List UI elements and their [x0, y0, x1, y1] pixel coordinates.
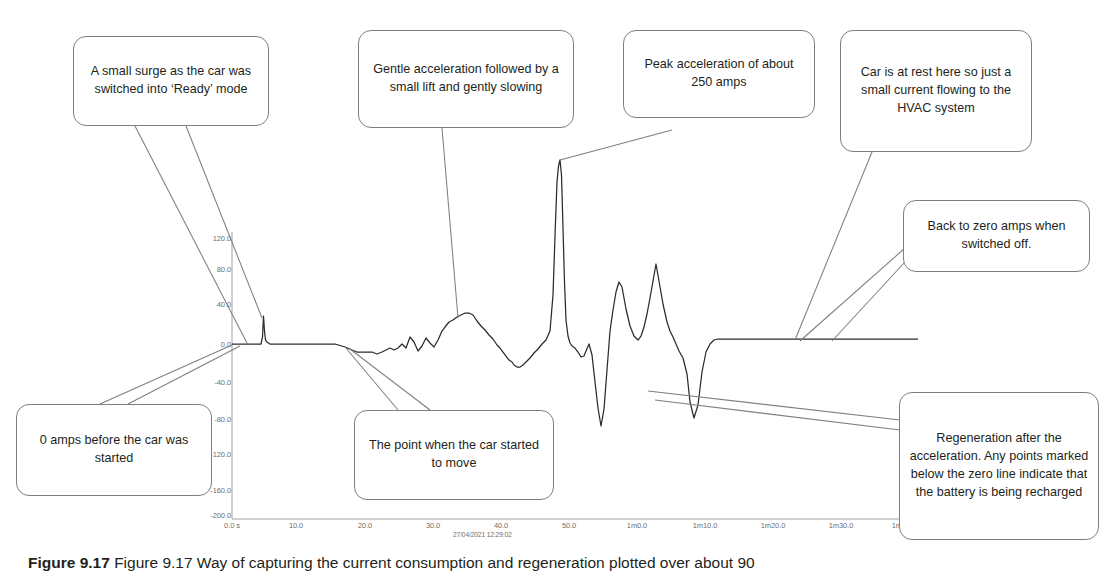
- callout-zero-before-start-text: 0 amps before the car was started: [26, 432, 202, 468]
- capture-timestamp: 27/04/2021 12:29:02: [453, 531, 512, 538]
- callout-back-to-zero-text: Back to zero amps when switched off.: [913, 218, 1080, 254]
- callout-back-to-zero: Back to zero amps when switched off.: [903, 200, 1090, 272]
- x-tick-label: 10.0: [274, 521, 318, 530]
- y-tick-label: 40.0: [197, 300, 231, 309]
- y-tick-label: 120.0: [197, 234, 231, 243]
- y-tick-label: -40.0: [197, 378, 231, 387]
- x-tick-label: 0.0 s: [210, 521, 254, 530]
- x-tick-label: 1m20.0: [751, 521, 795, 530]
- callout-peak-acceleration-text: Peak acceleration of about 250 amps: [633, 56, 805, 92]
- x-tick-label: 1m10.0: [683, 521, 727, 530]
- callout-ready-mode: A small surge as the car was switched in…: [73, 36, 269, 126]
- x-tick-label: 1m30.0: [819, 521, 863, 530]
- x-tick-label: 20.0: [343, 521, 387, 530]
- figure-caption-label: Figure 9.17: [28, 554, 110, 571]
- callout-gentle-acceleration: Gentle acceleration followed by a small …: [358, 30, 574, 128]
- callout-zero-before-start: 0 amps before the car was started: [16, 404, 212, 496]
- x-tick-label: 40.0: [479, 521, 523, 530]
- callout-car-at-rest: Car is at rest here so just a small curr…: [840, 30, 1032, 152]
- x-tick-label: 30.0: [411, 521, 455, 530]
- callout-regeneration-text: Regeneration after the acceleration. Any…: [909, 430, 1089, 502]
- x-tick-label: 1m0.0: [615, 521, 659, 530]
- current-trace: [232, 160, 918, 426]
- callout-started-to-move: The point when the car started to move: [354, 410, 554, 500]
- y-tick-label: 80.0: [197, 265, 231, 274]
- callout-peak-acceleration: Peak acceleration of about 250 amps: [623, 30, 815, 118]
- callout-started-to-move-text: The point when the car started to move: [364, 437, 544, 473]
- callout-ready-mode-text: A small surge as the car was switched in…: [83, 63, 259, 99]
- chart-axes: [232, 232, 918, 519]
- y-tick-label: 0.0: [197, 340, 231, 349]
- figure-caption-text: Figure 9.17 Way of capturing the current…: [114, 554, 755, 571]
- figure-page: 120.0 80.0 40.0 0.0 -40.0 -80.0 -120.0 -…: [0, 0, 1105, 575]
- callout-regeneration: Regeneration after the acceleration. Any…: [899, 392, 1099, 540]
- callout-gentle-acceleration-text: Gentle acceleration followed by a small …: [368, 61, 564, 97]
- y-tick-label: -200.0: [197, 511, 231, 520]
- x-tick-label: 50.0: [547, 521, 591, 530]
- figure-caption: Figure 9.17 Figure 9.17 Way of capturing…: [28, 551, 1078, 574]
- callout-car-at-rest-text: Car is at rest here so just a small curr…: [850, 64, 1022, 118]
